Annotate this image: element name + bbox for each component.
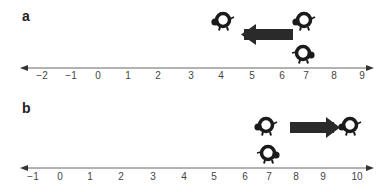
tick-label: 1 (87, 171, 93, 182)
axis-arrowhead-right-icon (366, 165, 374, 171)
turtle-icon (257, 147, 280, 164)
tick-label: 6 (242, 171, 248, 182)
tick-label: 0 (57, 171, 63, 182)
tick-label: −1 (65, 70, 76, 81)
number-lines (0, 0, 391, 192)
axis-arrowhead-right-icon (366, 65, 374, 71)
tick-label: 10 (351, 171, 362, 182)
tick-label: 0 (95, 70, 101, 81)
tick-label: 2 (155, 70, 161, 81)
turtle-icon (338, 119, 361, 136)
axis-arrowhead-left-icon (20, 65, 28, 71)
tick-label: 1 (125, 70, 131, 81)
turtle-icon (211, 14, 234, 31)
turtle-icon (254, 119, 277, 136)
turtle-icon (292, 47, 315, 64)
turtle-icon (292, 14, 315, 31)
tick-label: −2 (36, 70, 47, 81)
tick-label: 9 (359, 70, 365, 81)
tick-label: 2 (118, 171, 124, 182)
tick-label: 3 (150, 171, 156, 182)
tick-label: 8 (293, 171, 299, 182)
tick-label: 6 (279, 70, 285, 81)
movement-arrow-left-icon (241, 24, 293, 45)
movement-arrow-right-icon (290, 117, 340, 138)
tick-label: 5 (249, 70, 255, 81)
tick-label: 9 (320, 171, 326, 182)
tick-label: 5 (211, 171, 217, 182)
tick-label: 3 (188, 70, 194, 81)
tick-label: 7 (303, 70, 309, 81)
tick-label: 7 (266, 171, 272, 182)
tick-label: −1 (27, 171, 38, 182)
tick-label: 8 (331, 70, 337, 81)
tick-label: 4 (181, 171, 187, 182)
tick-label: 4 (218, 70, 224, 81)
